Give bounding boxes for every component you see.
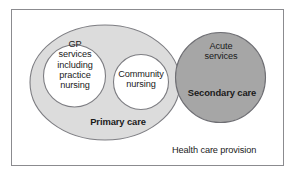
health-care-provision-caption: Health care provision — [172, 145, 276, 155]
community-nursing-label: Community nursing — [108, 69, 174, 90]
gp-services-label: GP services including practice nursing — [44, 39, 106, 90]
acute-services-label: Acute services — [190, 41, 252, 62]
secondary-care-label: Secondary care — [178, 88, 266, 99]
primary-care-label: Primary care — [76, 117, 160, 128]
diagram-root: GP services including practice nursing C… — [0, 0, 294, 181]
